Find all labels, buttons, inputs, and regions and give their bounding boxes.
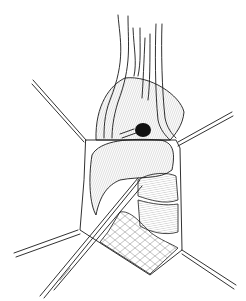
tissue-layer-1 — [138, 173, 178, 202]
dark-nodule — [135, 123, 151, 137]
retractor-upper-right — [178, 112, 233, 146]
retractor-lower-right — [182, 250, 236, 289]
surgical-illustration — [0, 0, 246, 301]
illustration-svg — [0, 0, 246, 301]
retractor-upper-left — [32, 80, 86, 142]
retractor-lower-left — [14, 230, 80, 257]
